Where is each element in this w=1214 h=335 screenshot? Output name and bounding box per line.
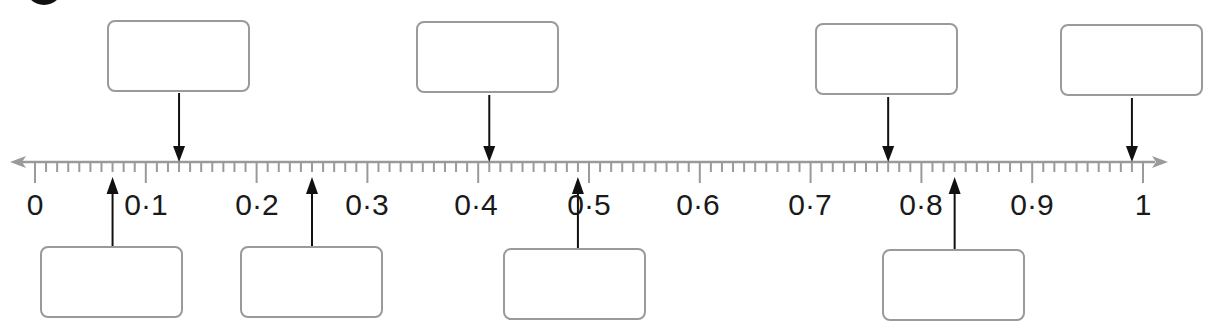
answer-box-top-4[interactable] [1060,24,1203,96]
tick-label-0-3: 0·3 [345,190,388,220]
arrow-down-icon [173,146,185,162]
tick-label-0-9: 0·9 [1010,190,1053,220]
arrow-down-icon [483,146,495,162]
answer-box-bottom-3[interactable] [503,248,646,320]
answer-box-bottom-2[interactable] [240,246,383,318]
arrow-down-icon [1126,146,1138,162]
tick-label-0-1: 0·1 [124,190,167,220]
number-line-worksheet: 0 0·1 0·2 0·3 0·4 0·5 0·6 0·7 0·8 0·9 1 [0,0,1214,335]
arrow-down-icon [882,146,894,162]
answer-box-bottom-4[interactable] [882,249,1025,321]
answer-box-bottom-1[interactable] [40,246,183,318]
tick-label-0-4: 0·4 [454,190,497,220]
tick-label-0-7: 0·7 [788,190,831,220]
answer-box-top-3[interactable] [815,23,958,95]
arrow-up-icon [949,177,961,194]
tick-label-0: 0 [27,190,44,220]
answer-box-top-1[interactable] [107,20,250,92]
tick-label-0-5: 0·5 [567,190,610,220]
tick-label-0-6: 0·6 [676,190,719,220]
arrow-up-icon [107,177,119,194]
tick-label-1: 1 [1135,190,1152,220]
arrow-up-icon [306,177,318,194]
tick-label-0-2: 0·2 [235,190,278,220]
answer-box-top-2[interactable] [416,21,559,93]
tick-label-0-8: 0·8 [899,190,942,220]
